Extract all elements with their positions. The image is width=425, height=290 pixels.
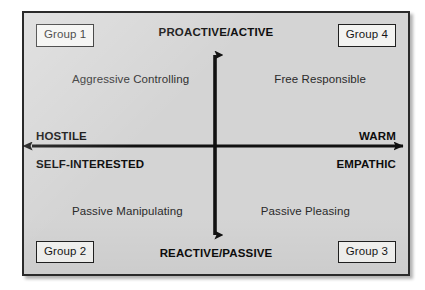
axis-label-empathic: EMPATHIC [336, 159, 396, 171]
axis-label-warm: WARM [359, 131, 396, 143]
axis-label-proactive-active: PROACTIVE/ACTIVE [159, 27, 274, 39]
quadrant-diagram-frame: Group 1 Group 4 Group 2 Group 3 PROACTIV… [22, 11, 410, 276]
group-box-3-label: Group 3 [346, 245, 388, 257]
quadrant-label-passive-manipulating: Passive Manipulating [72, 206, 183, 218]
group-box-1-label: Group 1 [44, 28, 86, 40]
group-box-4: Group 4 [338, 24, 396, 47]
group-box-1: Group 1 [36, 24, 94, 47]
quadrant-label-passive-pleasing: Passive Pleasing [261, 206, 350, 218]
axis-label-self-interested: SELF-INTERESTED [36, 159, 144, 171]
group-box-2: Group 2 [36, 241, 94, 264]
quadrant-label-aggressive-controlling: Aggressive Controlling [72, 74, 189, 86]
axes-group [24, 13, 412, 278]
axis-label-reactive-passive: REACTIVE/PASSIVE [160, 248, 273, 260]
group-box-2-label: Group 2 [44, 245, 86, 257]
quadrant-label-free-responsible: Free Responsible [274, 74, 366, 86]
group-box-3: Group 3 [338, 241, 396, 264]
group-box-4-label: Group 4 [346, 28, 388, 40]
axis-label-hostile: HOSTILE [36, 131, 87, 143]
